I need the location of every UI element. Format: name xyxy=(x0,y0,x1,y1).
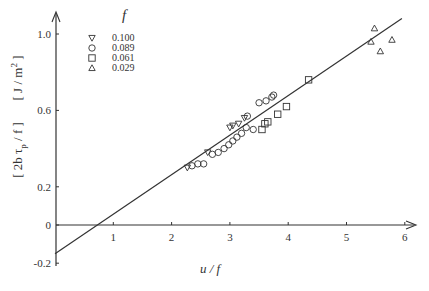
x-tick-label: 4 xyxy=(285,231,291,243)
y-tick-label: 0.6 xyxy=(37,104,51,116)
circle-marker-icon xyxy=(215,149,221,155)
x-tick-label: 5 xyxy=(344,231,350,243)
y-tick-label: 0.2 xyxy=(37,181,51,193)
x-tick-label: 1 xyxy=(111,231,117,243)
circle-marker-icon xyxy=(270,92,276,98)
legend-label: 0.029 xyxy=(112,62,135,73)
circle-marker-icon xyxy=(230,138,236,144)
circle-marker-icon xyxy=(226,142,232,148)
triangle-down-marker-icon xyxy=(235,121,241,127)
legend-triangle-up-icon xyxy=(89,65,95,71)
x-tick-label: 2 xyxy=(169,231,175,243)
x-tick-label: 6 xyxy=(402,231,408,243)
circle-marker-icon xyxy=(263,98,269,104)
y-tick-label: -0.2 xyxy=(34,257,51,269)
triangle-up-marker-icon xyxy=(377,48,383,54)
square-marker-icon xyxy=(283,103,289,109)
triangle-up-marker-icon xyxy=(371,25,377,31)
circle-marker-icon xyxy=(250,126,256,132)
svg-text:[ 2b τp / f ]: [ 2b τp / f ] xyxy=(10,122,28,178)
legend-title: f xyxy=(122,7,128,23)
triangle-up-marker-icon xyxy=(389,37,395,43)
circle-marker-icon xyxy=(269,94,275,100)
y-axis-unit-label: [ J / m2 ] xyxy=(9,56,25,101)
data-points xyxy=(184,25,395,171)
svg-text:[ J / m2 ]: [ J / m2 ] xyxy=(9,56,25,101)
circle-marker-icon xyxy=(256,100,262,106)
circle-marker-icon xyxy=(243,124,249,130)
legend: f0.1000.0890.0610.029 xyxy=(89,7,135,73)
x-axis-label: u / f xyxy=(200,261,223,276)
scatter-chart: 123456-0.200.20.61.0 f0.1000.0890.0610.0… xyxy=(0,0,429,291)
x-tick-label: 3 xyxy=(227,231,233,243)
y-tick-label: 0 xyxy=(46,219,52,231)
fit-line xyxy=(55,18,402,253)
legend-circle-icon xyxy=(89,45,95,51)
y-tick-label: 1.0 xyxy=(37,28,51,40)
legend-triangle-down-icon xyxy=(89,35,95,41)
square-marker-icon xyxy=(275,111,281,117)
legend-square-icon xyxy=(89,55,95,61)
circle-marker-icon xyxy=(238,130,244,136)
y-axis-label: [ 2b τp / f ] xyxy=(10,122,28,178)
